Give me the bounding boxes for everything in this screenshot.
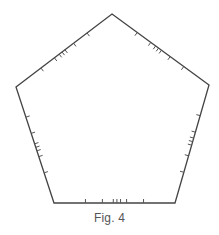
tick-mark [35, 143, 39, 144]
tick-mark [135, 32, 137, 35]
tick-mark [74, 43, 76, 46]
tick-mark [180, 171, 184, 172]
pentagon-figure [0, 0, 219, 235]
tick-mark [168, 57, 170, 60]
tick-mark [41, 68, 43, 71]
figure-caption: Fig. 4 [0, 211, 219, 225]
tick-mark [196, 115, 200, 116]
tick-mark [153, 46, 155, 49]
pentagon-outline [16, 14, 209, 203]
tick-mark [62, 52, 64, 55]
tick-mark [39, 155, 43, 156]
tick-mark [26, 116, 30, 117]
edge-tick-marks [26, 32, 200, 203]
tick-mark [185, 155, 189, 156]
tick-mark [156, 48, 158, 51]
tick-mark [31, 132, 35, 133]
tick-mark [190, 137, 194, 138]
tick-mark [148, 42, 150, 45]
tick-mark [54, 58, 56, 61]
tick-mark [36, 146, 40, 147]
tick-mark [44, 172, 48, 173]
tick-mark [192, 131, 196, 132]
tick-mark [65, 50, 67, 53]
tick-mark [59, 54, 61, 57]
tick-mark [188, 144, 192, 145]
tick-mark [189, 141, 193, 142]
tick-mark [37, 150, 41, 151]
tick-mark [159, 50, 161, 53]
tick-mark [87, 33, 89, 36]
tick-mark [181, 67, 183, 70]
